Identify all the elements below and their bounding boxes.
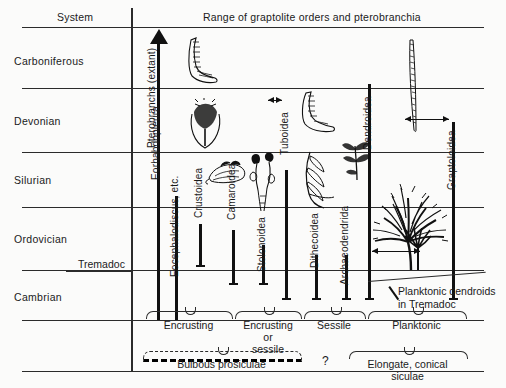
taxon-label-eocephalodiscus: Eocephalodiscus, etc. [169,176,180,277]
fossil-sketch-cephalodiscus [186,98,226,150]
habit-bracket-planktonic [368,311,467,319]
range-bar-tuboidea [285,170,288,300]
habit-label-or: or [232,331,304,343]
range-bar-crustoidea [199,224,202,267]
range-cap-crustoidea [196,265,205,267]
annotation-line-1: Planktonic dendroids [398,285,495,297]
system-label-silurian: Silurian [14,174,51,186]
fossil-sketch-dendroid-rhabdosome [404,38,424,134]
axis-label-pterobranchs-extant: Pterobranchs (extant) [146,48,157,148]
system-label-devonian: Devonian [14,115,61,127]
header-system: System [57,11,93,23]
panel-divider [131,8,133,371]
system-label-cambrian: Cambrian [14,291,62,303]
fossil-sketch-camaroidea [247,150,281,212]
pterobranch-axis-line [157,43,160,320]
subdivision-label-tremadoc: Tremadoc [78,258,125,270]
habit-label-planktonic: Planktonic [368,319,465,331]
fossil-sketch-archaeodendrida [340,140,374,182]
graptolite-range-chart: System Range of graptolite orders and pt… [0,0,506,388]
sicula-label-elongate-line1: Elongate, conical [368,358,448,370]
range-bar-camaroidea [232,230,235,285]
range-cap-camaroidea [229,283,238,285]
habit-bracket-encrusting-1 [146,311,233,319]
header-range: Range of graptolite orders and pterobran… [203,11,421,23]
planktonic-dendroids-leader-rule [368,272,486,282]
habit-bracket-encrusting-or-sessile [235,311,302,319]
range-cap-dendroidea [365,298,374,300]
taxon-label-tuboidea: Tuboidea [279,112,290,155]
range-cap-archaeodendrida [342,298,351,300]
header-rule [22,27,484,28]
range-cap-dithecoidea [312,298,321,300]
taxon-label-dithecoidea: Dithecoidea [309,213,320,268]
pterobranch-axis-arrowhead [150,29,168,44]
annotation-line-2: in Tremadoc [398,298,456,310]
range-cap-tuboidea [282,298,291,300]
habit-bracket-sessile [304,311,366,319]
fossil-sketch-crustoidea [205,158,249,186]
fossil-sketch-graptoloid [404,228,432,272]
sicula-label-bulbous: Bulbous prosiculae [143,358,300,370]
taxon-label-stolonoidea: Stolonoidea [256,217,267,272]
fossil-sketch-dithecoidea [296,150,336,210]
system-label-ordovician: Ordovician [14,233,67,245]
habit-label-encrusting-2: Encrusting [232,319,304,331]
taxon-label-crustoidea: Crustoidea [193,168,204,218]
system-label-carboniferous: Carboniferous [14,55,84,67]
uncertainty-question-mark: ? [322,354,329,368]
tremadoc-rule [66,270,131,272]
derivation-arrow-tuboidea [268,100,282,101]
habit-label-sessile: Sessile [304,319,364,331]
habit-label-encrusting-1: Encrusting [146,319,231,331]
fossil-sketch-rhabdopleura [185,36,221,86]
sicula-label-elongate: Elongate, conical siculae [349,358,466,382]
sicula-label-elongate-line2: siculae [391,370,424,382]
taxon-label-archaeodendrida: Archaeodendrida [339,206,350,285]
fossil-sketch-tuboidea [297,90,339,138]
range-cap-stolonoidea [259,283,268,285]
